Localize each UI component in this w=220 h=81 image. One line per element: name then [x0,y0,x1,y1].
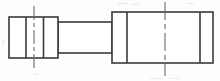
shaft-section [58,22,112,53]
drawing-svg [0,0,220,81]
right-flange-block [112,12,213,63]
technical-drawing-canvas [0,0,220,81]
